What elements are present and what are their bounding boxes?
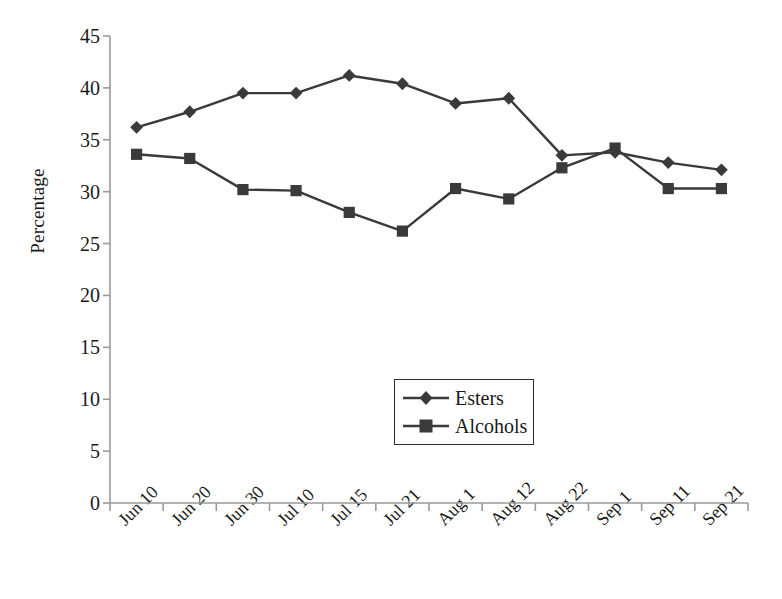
series-line bbox=[137, 75, 722, 169]
data-point-square-icon bbox=[344, 207, 355, 218]
data-point-square-icon bbox=[450, 183, 461, 194]
chart-legend: Esters Alcohols bbox=[394, 379, 534, 445]
data-point-square-icon bbox=[663, 183, 674, 194]
data-point-diamond-icon bbox=[130, 121, 143, 134]
data-point-diamond-icon bbox=[662, 156, 675, 169]
data-point-square-icon bbox=[237, 184, 248, 195]
legend-item-esters: Esters bbox=[401, 385, 504, 411]
legend-marker-diamond-icon bbox=[401, 387, 451, 409]
legend-label-esters: Esters bbox=[455, 387, 504, 410]
data-point-square-icon bbox=[556, 162, 567, 173]
series-esters bbox=[130, 69, 728, 176]
plot-area bbox=[0, 0, 782, 599]
data-point-square-icon bbox=[184, 153, 195, 164]
data-point-square-icon bbox=[503, 193, 514, 204]
line-chart: Percentage 454035302520151050 Jun 10Jun … bbox=[0, 0, 782, 599]
legend-marker-square-icon bbox=[401, 415, 451, 437]
data-point-square-icon bbox=[290, 185, 301, 196]
data-point-square-icon bbox=[609, 142, 620, 153]
data-point-diamond-icon bbox=[715, 163, 728, 176]
series-line bbox=[137, 148, 722, 231]
data-point-square-icon bbox=[397, 226, 408, 237]
data-point-diamond-icon bbox=[343, 69, 356, 82]
legend-label-alcohols: Alcohols bbox=[455, 415, 527, 438]
legend-item-alcohols: Alcohols bbox=[401, 413, 527, 439]
data-point-diamond-icon bbox=[290, 87, 303, 100]
data-point-diamond-icon bbox=[183, 105, 196, 118]
data-point-square-icon bbox=[131, 149, 142, 160]
data-point-diamond-icon bbox=[237, 87, 250, 100]
data-point-diamond-icon bbox=[449, 97, 462, 110]
data-point-diamond-icon bbox=[396, 77, 409, 90]
data-point-square-icon bbox=[716, 183, 727, 194]
